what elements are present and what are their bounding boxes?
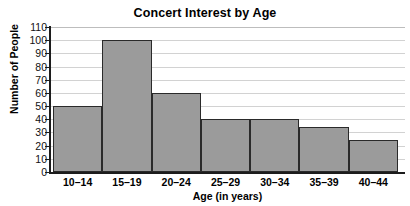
bar — [201, 119, 250, 172]
y-tick-label-40: 40 — [3, 114, 47, 124]
bar — [152, 93, 201, 172]
plot-area — [50, 27, 405, 172]
y-tick-label-10: 10 — [3, 154, 47, 164]
bar — [53, 106, 102, 172]
y-tick-label-60: 60 — [3, 88, 47, 98]
bar — [102, 40, 151, 172]
y-tick-label-110: 110 — [3, 22, 47, 32]
x-axis-label: Age (in years) — [50, 190, 405, 202]
y-tick-label-80: 80 — [3, 62, 47, 72]
bar — [349, 140, 398, 172]
y-axis-ticks: 0102030405060708090100110 — [0, 0, 47, 206]
y-tick-label-50: 50 — [3, 101, 47, 111]
gridline-110 — [50, 27, 405, 28]
bar — [250, 119, 299, 172]
x-axis-line — [49, 172, 405, 174]
x-tick-label: 40–44 — [343, 176, 403, 188]
chart-title: Concert Interest by Age — [0, 6, 410, 20]
y-tick-label-90: 90 — [3, 48, 47, 58]
y-tick-label-30: 30 — [3, 127, 47, 137]
y-axis-line — [49, 26, 51, 174]
y-tick-label-70: 70 — [3, 75, 47, 85]
histogram-figure: Concert Interest by Age Number of People… — [0, 0, 410, 206]
y-tick-label-20: 20 — [3, 141, 47, 151]
bar — [299, 127, 348, 172]
y-tick-label-100: 100 — [3, 35, 47, 45]
y-tick-label-0: 0 — [3, 167, 47, 177]
